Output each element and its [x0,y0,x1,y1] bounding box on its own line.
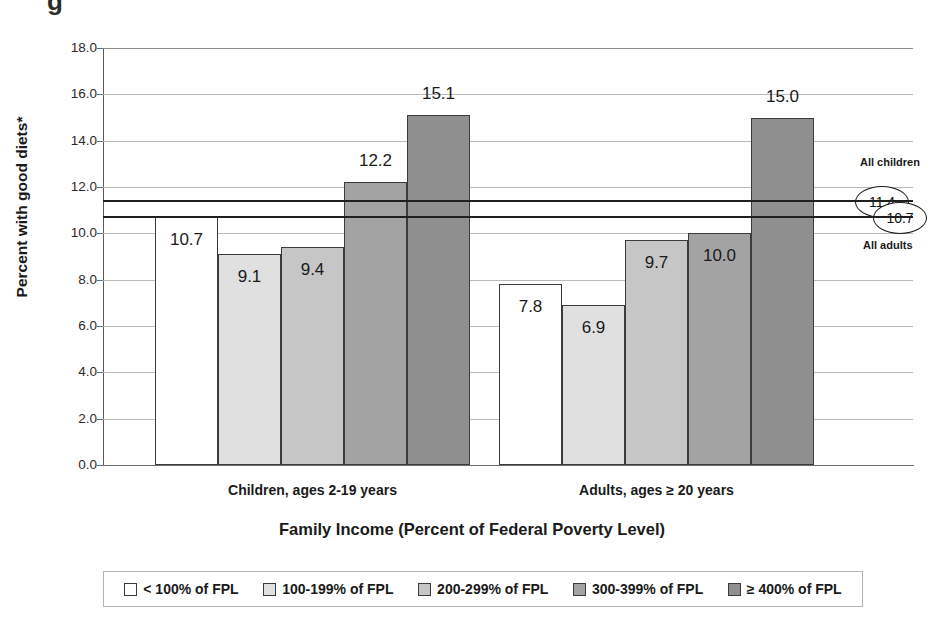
bar-value-label: 7.8 [499,297,562,317]
group-label-children: Children, ages 2-19 years [155,482,470,498]
y-axis-tick-mark [97,233,103,234]
y-axis-tick-label: 18.0 [53,40,97,55]
bar-value-label: 9.4 [281,260,344,280]
y-axis-tick-mark [97,419,103,420]
bar-value-label: 10.0 [688,246,751,266]
y-axis-tick-label: 14.0 [53,133,97,148]
bar [407,115,470,465]
clipped-title-glyph: g [47,0,63,14]
legend-swatch-icon [573,583,586,596]
reference-caption-all-adults: All adults [863,239,913,251]
bar-value-label: 12.2 [344,151,407,171]
y-axis-tick-mark [97,94,103,95]
bar-value-label: 9.1 [218,267,281,287]
y-axis-title: Percent with good diets* [13,57,31,357]
legend-item-label: 200-299% of FPL [437,581,548,597]
bar-value-label: 9.7 [625,253,688,273]
legend-swatch-icon [263,583,276,596]
y-axis-tick-mark [97,187,103,188]
y-axis-tick-label: 12.0 [53,179,97,194]
bar-value-label: 15.1 [407,84,470,104]
bar [751,118,814,466]
y-axis-tick-mark [97,372,103,373]
bar [155,217,218,465]
legend-item-label: 300-399% of FPL [592,581,703,597]
y-axis-tick-mark [97,48,103,49]
x-axis-line [103,465,914,466]
y-axis-tick-label: 16.0 [53,86,97,101]
y-axis-tick-label: 10.0 [53,225,97,240]
group-label-adults: Adults, ages ≥ 20 years [499,482,814,498]
reference-caption-all-children: All children [860,156,920,168]
y-axis-tick-label: 2.0 [53,411,97,426]
legend-item-label: < 100% of FPL [143,581,238,597]
bar-value-label: 15.0 [751,87,814,107]
legend-swatch-icon [728,583,741,596]
reference-line-all-adults [103,216,913,218]
legend-item-label: ≥ 400% of FPL [747,581,842,597]
legend-item[interactable]: < 100% of FPL [124,581,238,597]
gridline [103,48,913,49]
bar [344,182,407,465]
y-axis-tick-mark [97,280,103,281]
bar [625,240,688,465]
legend-item[interactable]: 300-399% of FPL [573,581,703,597]
y-axis-tick-label: 4.0 [53,364,97,379]
bar-value-label: 10.7 [155,230,218,250]
legend-item[interactable]: ≥ 400% of FPL [728,581,842,597]
chart-figure: g Percent with good diets* 18.016.014.01… [0,0,944,625]
legend-item-label: 100-199% of FPL [282,581,393,597]
legend-item[interactable]: 200-299% of FPL [418,581,548,597]
bar-value-label: 6.9 [562,318,625,338]
x-axis-title: Family Income (Percent of Federal Povert… [0,520,944,539]
bar [688,233,751,465]
y-axis-tick-mark [97,465,103,466]
y-axis-tick-label: 8.0 [53,272,97,287]
y-axis-tick-labels: 18.016.014.012.010.08.06.04.02.00.0 [47,48,97,466]
reference-line-all-children [103,200,913,202]
legend-swatch-icon [124,583,137,596]
y-axis-tick-mark [97,326,103,327]
legend: < 100% of FPL100-199% of FPL200-299% of … [103,571,863,607]
y-axis-tick-mark [97,141,103,142]
y-axis-tick-label: 0.0 [53,457,97,472]
plot-area: 10.79.19.412.215.17.86.99.710.015.011.4A… [103,48,913,465]
legend-item[interactable]: 100-199% of FPL [263,581,393,597]
legend-swatch-icon [418,583,431,596]
y-axis-tick-label: 6.0 [53,318,97,333]
